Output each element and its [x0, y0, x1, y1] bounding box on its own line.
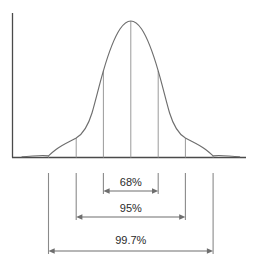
bracket-68-label: 68%: [120, 176, 142, 188]
normal-distribution-chart: 68% 95% 99.7%: [0, 0, 262, 264]
bracket-997-label: 99.7%: [115, 234, 146, 246]
bracket-95-label: 95%: [120, 202, 142, 214]
bell-curve-figure: 68% 95% 99.7%: [0, 0, 262, 264]
